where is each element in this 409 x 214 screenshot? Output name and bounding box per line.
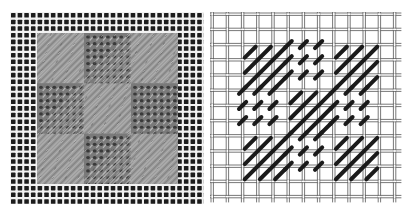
tent-stitch: [345, 87, 352, 94]
tent-stitch: [285, 71, 292, 78]
tent-stitch: [345, 102, 352, 109]
tent-stitch: [239, 102, 246, 109]
tent-stitch: [285, 41, 292, 48]
tent-stitch: [361, 87, 368, 94]
tent-stitch: [254, 117, 261, 124]
scotch-stitch: [336, 47, 347, 58]
scotch-stitch: [245, 47, 256, 58]
tent-stitch: [239, 117, 246, 124]
tent-stitch: [315, 41, 322, 48]
tent-stitch: [285, 163, 292, 170]
scotch-stitch: [351, 153, 377, 179]
tent-stitch: [315, 132, 322, 139]
scotch-stitch: [336, 47, 362, 73]
tent-stitch: [254, 87, 261, 94]
stitches: [239, 41, 377, 179]
tent-stitch: [300, 132, 307, 139]
tent-stitch: [300, 71, 307, 78]
tent-stitch: [285, 56, 292, 63]
stitched-area: [10, 33, 204, 188]
scotch-stitch: [245, 138, 271, 164]
tent-stitch: [361, 117, 368, 124]
scotch-stitch: [306, 108, 332, 134]
tent-stitch: [330, 102, 337, 109]
tent-stitch: [300, 56, 307, 63]
tent-stitch: [269, 102, 276, 109]
tent-stitch: [285, 147, 292, 154]
scotch-stitch: [336, 138, 347, 149]
scotch-stitch: [245, 47, 271, 73]
scotch-stitch: [290, 92, 316, 118]
tent-stitch: [315, 71, 322, 78]
diagram-graphic: [209, 10, 405, 206]
tent-stitch: [300, 147, 307, 154]
tent-stitch: [315, 163, 322, 170]
tent-stitch: [315, 56, 322, 63]
tent-stitch: [361, 102, 368, 109]
tent-stitch: [315, 147, 322, 154]
tent-stitch: [239, 87, 246, 94]
tent-stitch: [330, 117, 337, 124]
scotch-stitch: [351, 62, 377, 88]
tent-stitch: [269, 87, 276, 94]
scotch-stitch: [260, 62, 286, 88]
scotch-stitch: [260, 153, 286, 179]
tent-stitch: [300, 163, 307, 170]
scotch-stitch: [366, 168, 377, 179]
photo-canvas-graphic: [10, 12, 204, 204]
tent-stitch: [345, 117, 352, 124]
stitched-canvas-photo: [10, 12, 204, 204]
scotch-stitch: [336, 138, 362, 164]
stitch-pattern-diagram: [209, 10, 405, 206]
tent-stitch: [300, 41, 307, 48]
tent-stitch: [330, 87, 337, 94]
scotch-stitch: [245, 138, 256, 149]
scotch-stitch: [290, 92, 301, 103]
tent-stitch: [254, 102, 261, 109]
tent-stitch: [269, 117, 276, 124]
tent-stitch: [285, 132, 292, 139]
